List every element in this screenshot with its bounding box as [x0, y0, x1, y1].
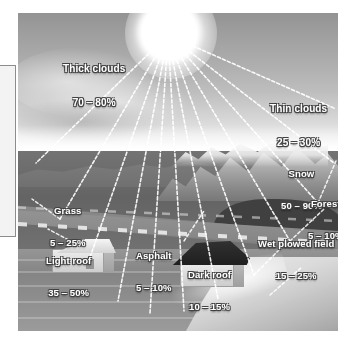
label-asphalt: Asphalt 5 – 10% — [136, 230, 172, 315]
label-name: Wet plowed field — [258, 239, 334, 250]
left-side-panel — [0, 65, 16, 237]
label-name: Water — [81, 330, 186, 331]
label-name: Grass — [50, 206, 86, 217]
label-name: Thin clouds — [270, 103, 327, 114]
label-value: 25 – 30% — [270, 137, 327, 148]
label-thick-clouds: Thick clouds 70 – 80% — [63, 41, 125, 131]
label-light-roof: Light roof 35 – 50% — [46, 235, 91, 320]
label-value: 5 – 10% — [136, 283, 172, 294]
label-value: 15 – 25% — [258, 271, 334, 282]
label-value: 10 – 15% — [188, 302, 231, 313]
label-value: 70 – 80% — [63, 97, 125, 108]
label-name: Dark roof — [188, 270, 231, 281]
label-water: Water 5 – 80% (varies with sun angle) — [81, 309, 186, 331]
screenshot-root: .ray{fill:none;stroke:#ffffff;stroke-wid… — [0, 0, 351, 346]
albedo-illustration: .ray{fill:none;stroke:#ffffff;stroke-wid… — [18, 13, 338, 331]
label-dark-roof: Dark roof 10 – 15% — [188, 249, 231, 331]
label-wet-plowed-field: Wet plowed field 15 – 25% — [258, 218, 334, 303]
label-name: Thick clouds — [63, 63, 125, 74]
label-value: 35 – 50% — [46, 288, 91, 299]
label-name: Forest — [308, 199, 338, 210]
label-sandy-beach: Sandy beach 20 – 40% — [240, 311, 300, 331]
label-name: Light roof — [46, 256, 91, 267]
label-name: Asphalt — [136, 251, 172, 262]
